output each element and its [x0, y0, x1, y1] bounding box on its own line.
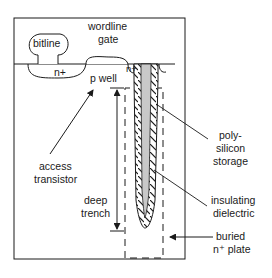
label-poly: poly- — [219, 129, 242, 141]
label-storage: storage — [213, 155, 248, 167]
label-transistor: transistor — [34, 173, 78, 185]
label-n-plus-left: n+ — [54, 66, 66, 78]
label-dielectric: dielectric — [213, 207, 254, 219]
trench-right-collar — [159, 64, 166, 72]
label-deep: deep — [84, 194, 108, 206]
label-plate: n⁺ plate — [213, 243, 251, 255]
polysilicon-leader — [156, 104, 208, 139]
dram-trench-diagram: bitline wordline gate n+ n+ p well acces… — [0, 0, 272, 278]
label-insulating: insulating — [211, 194, 256, 206]
label-buried: buried — [216, 230, 245, 242]
label-trench: trench — [81, 207, 110, 219]
label-silicon: silicon — [216, 142, 245, 154]
label-wordline: wordline — [87, 20, 127, 32]
label-access: access — [39, 160, 72, 172]
label-bitline: bitline — [33, 37, 61, 49]
dielectric-leader — [154, 170, 207, 206]
access-transistor-arrow — [50, 90, 93, 154]
label-p-well: p well — [90, 72, 117, 84]
label-n-plus-right: n+ — [126, 63, 137, 74]
wordline-gate — [86, 57, 128, 64]
label-gate: gate — [98, 33, 119, 45]
